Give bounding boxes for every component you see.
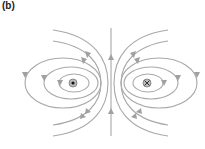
current-into-page-icon [143,79,151,87]
arrow-down-icon [41,75,47,81]
arrow-down-icon [175,75,181,81]
right-loop-outer [121,58,197,108]
right-closed-loops [121,58,200,108]
center-field-line [108,28,114,136]
left-closed-loops [22,58,101,108]
left-loop-outer [25,58,101,108]
current-out-of-page-icon [69,79,77,87]
field-diagram [0,0,205,149]
arrow-icon [131,113,137,119]
arrow-up-icon [108,108,114,114]
right-open-arcs [114,30,168,136]
arrow-up-icon [108,54,114,60]
arrow-down-icon [57,80,63,86]
arrow-down-icon [161,80,167,86]
